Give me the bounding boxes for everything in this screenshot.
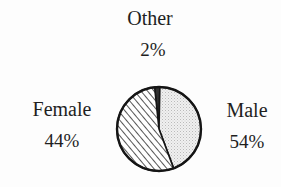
slice-label-other: Other bbox=[100, 8, 200, 28]
pie-chart-figure: Other 2% Female 44% Male 54% bbox=[0, 0, 281, 187]
slice-label-female: Female bbox=[12, 99, 112, 119]
pie-svg bbox=[114, 83, 204, 175]
slice-value-female: 44% bbox=[12, 131, 112, 150]
pie-graphic bbox=[114, 83, 204, 175]
slice-value-other: 2% bbox=[103, 40, 203, 59]
slice-label-male: Male bbox=[197, 100, 281, 120]
slice-value-male: 54% bbox=[197, 132, 281, 151]
